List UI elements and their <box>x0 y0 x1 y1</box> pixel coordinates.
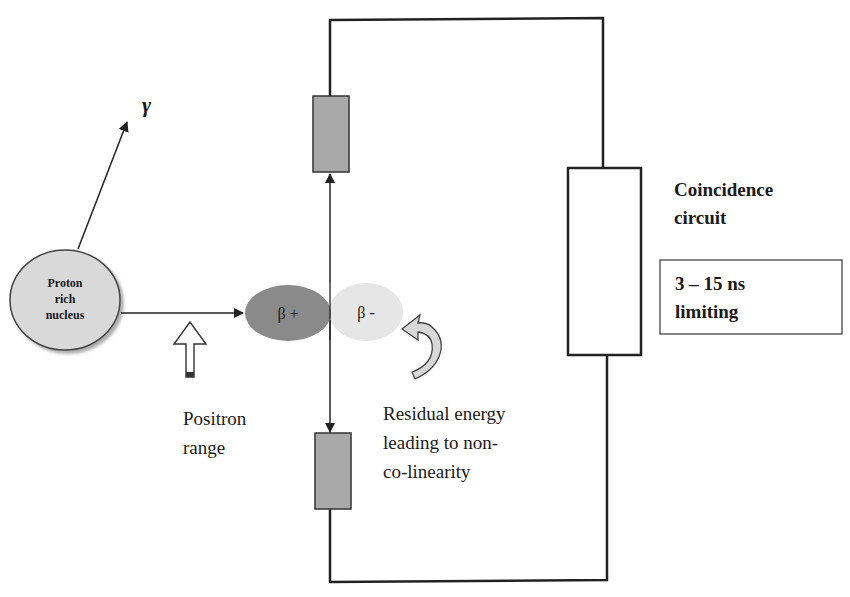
beta-minus-particle: β - <box>329 283 403 341</box>
gamma-label: γ <box>142 92 152 117</box>
timing-window-box <box>660 260 842 334</box>
residual-energy-label-3: co-linearity <box>383 461 471 482</box>
svg-text:β +: β + <box>277 305 298 323</box>
svg-text:rich: rich <box>55 292 76 306</box>
positron-range-label: Positron <box>183 408 247 429</box>
residual-energy-curved-arrow-icon <box>402 315 441 379</box>
residual-energy-label-2: leading to non- <box>383 432 498 453</box>
detector-top <box>313 96 349 172</box>
timing-window-label: 3 – 15 ns <box>675 273 745 294</box>
svg-text:β -: β - <box>357 304 374 322</box>
coincidence-circuit-box <box>568 168 641 355</box>
pet-coincidence-diagram: γ Proton rich nucleus Positron range β - <box>0 0 850 597</box>
proton-rich-nucleus: Proton rich nucleus <box>10 250 120 350</box>
gamma-arrow <box>78 122 127 249</box>
coincidence-circuit-label-2: circuit <box>674 207 727 228</box>
beta-plus-particle: β + <box>245 285 331 341</box>
detector-bottom <box>315 433 351 509</box>
positron-range-arrow-icon <box>174 322 206 377</box>
timing-window-label-2: limiting <box>675 301 739 322</box>
positron-range-label-2: range <box>183 437 225 458</box>
coincidence-circuit-label: Coincidence <box>674 179 773 200</box>
residual-energy-label: Residual energy <box>383 403 506 424</box>
svg-text:Proton: Proton <box>47 276 82 290</box>
svg-text:nucleus: nucleus <box>46 308 85 322</box>
